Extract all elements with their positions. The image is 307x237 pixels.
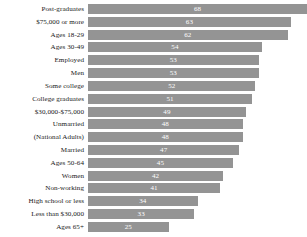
chart-row: $30,000-$75,00049: [0, 107, 307, 117]
bar-value-label: 49: [163, 108, 170, 116]
bar-track: 48: [88, 132, 307, 142]
bar-track: 62: [88, 30, 307, 40]
bar: 41: [88, 183, 220, 193]
bar: 34: [88, 196, 198, 206]
bar-track: 63: [88, 17, 307, 27]
bar: 53: [88, 55, 259, 65]
bar-value-label: 63: [186, 18, 193, 26]
bar-value-label: 42: [152, 172, 159, 180]
category-label: (National Adults): [0, 133, 88, 141]
chart-row: Employed53: [0, 55, 307, 65]
bar-value-label: 68: [194, 5, 201, 13]
bar-value-label: 25: [125, 223, 132, 231]
chart-row: (National Adults)48: [0, 132, 307, 142]
chart-row: Some college52: [0, 81, 307, 91]
chart-row: Ages 30-4954: [0, 42, 307, 52]
bar-value-label: 53: [170, 69, 177, 77]
category-label: Less than $30,000: [0, 210, 88, 218]
bar-track: 42: [88, 171, 307, 181]
chart-row: College graduates51: [0, 94, 307, 104]
category-label: Married: [0, 146, 88, 154]
bar: 51: [88, 94, 252, 104]
bar-track: 49: [88, 107, 307, 117]
chart-row: Ages 50-6445: [0, 158, 307, 168]
bar-value-label: 45: [157, 159, 164, 167]
bar: 48: [88, 119, 243, 129]
chart-row: Ages 18-2962: [0, 30, 307, 40]
bar: 62: [88, 30, 288, 40]
category-label: $75,000 or more: [0, 18, 88, 26]
chart-row: Married47: [0, 145, 307, 155]
bar-track: 53: [88, 68, 307, 78]
bar: 47: [88, 145, 239, 155]
bar-value-label: 33: [138, 210, 145, 218]
chart-row: Post-graduates68: [0, 4, 307, 14]
bar: 33: [88, 209, 194, 219]
chart-row: Unmarried48: [0, 119, 307, 129]
bar-value-label: 62: [184, 31, 191, 39]
category-label: Employed: [0, 56, 88, 64]
bar-value-label: 41: [150, 184, 157, 192]
category-label: Ages 18-29: [0, 31, 88, 39]
category-label: Ages 65+: [0, 223, 88, 231]
category-label: Men: [0, 69, 88, 77]
category-label: College graduates: [0, 95, 88, 103]
bar: 49: [88, 107, 246, 117]
bar: 53: [88, 68, 259, 78]
category-label: High school or less: [0, 197, 88, 205]
bar-track: 51: [88, 94, 307, 104]
bar-value-label: 53: [170, 56, 177, 64]
category-label: Women: [0, 172, 88, 180]
bar-track: 33: [88, 209, 307, 219]
bar: 68: [88, 4, 307, 14]
category-label: Post-graduates: [0, 5, 88, 13]
category-label: Non-working: [0, 184, 88, 192]
bar-track: 48: [88, 119, 307, 129]
category-label: $30,000-$75,000: [0, 108, 88, 116]
bar-track: 41: [88, 183, 307, 193]
bar-track: 68: [88, 4, 307, 14]
bar-value-label: 47: [160, 146, 167, 154]
chart-row: Men53: [0, 68, 307, 78]
category-label: Unmarried: [0, 120, 88, 128]
bar-value-label: 52: [168, 82, 175, 90]
bar-value-label: 48: [162, 133, 169, 141]
bar-value-label: 48: [162, 120, 169, 128]
bar: 25: [88, 222, 169, 232]
bar-track: 34: [88, 196, 307, 206]
category-label: Ages 50-64: [0, 159, 88, 167]
chart-row: $75,000 or more63: [0, 17, 307, 27]
bar-value-label: 54: [171, 43, 178, 51]
bar: 54: [88, 42, 262, 52]
bar-value-label: 34: [139, 197, 146, 205]
bar-track: 25: [88, 222, 307, 232]
horizontal-bar-chart: Post-graduates68$75,000 or more63Ages 18…: [0, 0, 307, 237]
bar-value-label: 51: [167, 95, 174, 103]
chart-row: Less than $30,00033: [0, 209, 307, 219]
chart-row: High school or less34: [0, 196, 307, 206]
bar: 52: [88, 81, 255, 91]
bar-track: 45: [88, 158, 307, 168]
chart-row: Women42: [0, 171, 307, 181]
bar-track: 54: [88, 42, 307, 52]
chart-row: Ages 65+25: [0, 222, 307, 232]
category-label: Ages 30-49: [0, 43, 88, 51]
bar: 63: [88, 17, 291, 27]
bar: 45: [88, 158, 233, 168]
bar: 42: [88, 171, 223, 181]
chart-row: Non-working41: [0, 183, 307, 193]
category-label: Some college: [0, 82, 88, 90]
bar-track: 47: [88, 145, 307, 155]
bar-track: 52: [88, 81, 307, 91]
bar: 48: [88, 132, 243, 142]
bar-track: 53: [88, 55, 307, 65]
